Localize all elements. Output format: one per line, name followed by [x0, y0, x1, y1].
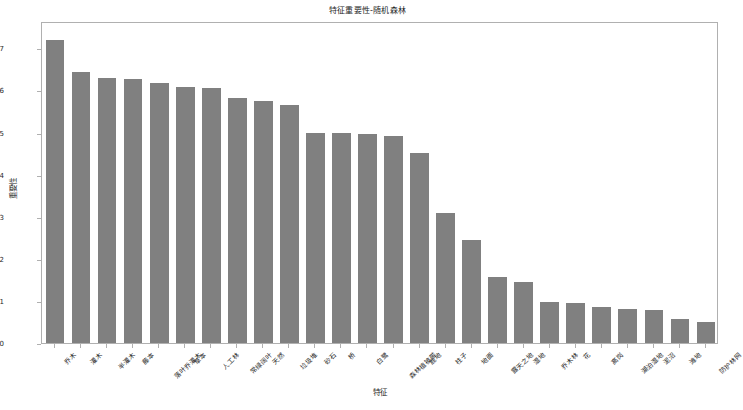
x-tick-mark — [288, 344, 289, 348]
bar — [254, 101, 273, 343]
x-tick-mark — [653, 344, 654, 348]
bar — [592, 307, 611, 343]
x-tick-label: 湿地 — [530, 349, 547, 366]
x-tick-mark — [419, 344, 420, 348]
y-tick-label: 0.01 — [0, 298, 4, 306]
bar — [436, 213, 455, 343]
y-tick-label: 0.00 — [0, 340, 4, 348]
bar — [306, 133, 325, 343]
x-tick-label: 白鹭 — [374, 349, 391, 366]
x-tick-mark — [705, 344, 706, 348]
y-tick-mark — [37, 49, 41, 50]
x-tick-mark — [314, 344, 315, 348]
y-tick-label: 0.05 — [0, 130, 4, 138]
bar — [410, 153, 429, 343]
bar — [176, 87, 195, 343]
x-tick-label: 天然 — [269, 349, 286, 366]
bar — [645, 310, 664, 343]
x-tick-mark — [627, 344, 628, 348]
x-tick-label: 湖泊湿地 — [638, 349, 665, 376]
x-tick-mark — [80, 344, 81, 348]
bar — [618, 309, 637, 343]
x-tick-mark — [340, 344, 341, 348]
x-tick-mark — [549, 344, 550, 348]
x-tick-label: 防护林网 — [716, 349, 743, 376]
bar — [202, 88, 221, 343]
x-tick-label: 常绿阔叶 — [247, 349, 274, 376]
x-axis: 乔木灌木半灌木藤本落叶乔灌木草本人工林常绿阔叶天然垃圾堆砂石桥白鹭森林植被带鹿地… — [41, 344, 718, 410]
chart-title: 特征重要性-随机森林 — [0, 4, 735, 15]
x-tick-label: 砂石 — [321, 349, 338, 366]
bar — [332, 133, 351, 343]
y-axis: 重要性 0.000.010.020.030.040.050.060.07 — [0, 0, 41, 410]
bar — [671, 319, 690, 343]
y-tick-mark — [37, 344, 41, 345]
x-axis-label: 特征 — [41, 386, 718, 397]
x-tick-label: 泥沼 — [660, 349, 677, 366]
x-tick-label: 灌木 — [87, 349, 104, 366]
x-tick-label: 柱子 — [452, 349, 469, 366]
y-tick-label: 0.04 — [0, 172, 4, 180]
x-tick-label: 花 — [580, 349, 592, 361]
bar — [540, 302, 559, 343]
bar — [488, 277, 507, 343]
y-tick-mark — [37, 218, 41, 219]
x-tick-label: 滩地 — [686, 349, 703, 366]
bar — [280, 105, 299, 343]
x-tick-mark — [54, 344, 55, 348]
x-tick-mark — [262, 344, 263, 348]
y-tick-label: 0.03 — [0, 214, 4, 222]
x-tick-mark — [393, 344, 394, 348]
x-tick-label: 半灌木 — [115, 349, 137, 371]
y-tick-mark — [37, 134, 41, 135]
bars-layer — [42, 23, 717, 343]
bar — [384, 136, 403, 344]
bar — [697, 322, 716, 343]
x-tick-label: 乔木 — [61, 349, 78, 366]
x-tick-mark — [497, 344, 498, 348]
x-tick-mark — [366, 344, 367, 348]
x-tick-mark — [575, 344, 576, 348]
x-tick-mark — [471, 344, 472, 348]
x-tick-label: 桥 — [345, 349, 357, 361]
plot-area — [41, 22, 718, 344]
bar — [514, 282, 533, 343]
x-tick-label: 人工林 — [219, 349, 241, 371]
bar — [150, 83, 169, 343]
x-tick-mark — [210, 344, 211, 348]
y-tick-mark — [37, 260, 41, 261]
y-tick-label: 0.07 — [0, 45, 4, 53]
x-tick-label: 露天之地 — [508, 349, 535, 376]
x-tick-mark — [184, 344, 185, 348]
bar — [72, 72, 91, 343]
x-tick-label: 地面 — [478, 349, 495, 366]
y-tick-mark — [37, 176, 41, 177]
x-tick-mark — [236, 344, 237, 348]
y-tick-mark — [37, 302, 41, 303]
x-tick-mark — [132, 344, 133, 348]
x-tick-label: 垃圾堆 — [298, 349, 320, 371]
bar — [566, 303, 585, 343]
x-tick-mark — [158, 344, 159, 348]
bar — [46, 40, 65, 343]
y-axis-label: 重要性 — [7, 169, 18, 209]
y-tick-label: 0.02 — [0, 256, 4, 264]
bar — [228, 98, 247, 343]
x-tick-mark — [679, 344, 680, 348]
y-tick-label: 0.06 — [0, 87, 4, 95]
bar — [98, 78, 117, 343]
x-tick-mark — [445, 344, 446, 348]
bar — [462, 240, 481, 343]
x-tick-label: 藤本 — [139, 349, 156, 366]
bar — [124, 79, 143, 343]
x-tick-mark — [523, 344, 524, 348]
x-tick-mark — [601, 344, 602, 348]
bar — [358, 134, 377, 343]
x-tick-mark — [106, 344, 107, 348]
x-tick-label: 乔木林 — [558, 349, 580, 371]
x-tick-label: 高岗 — [608, 349, 625, 366]
y-tick-mark — [37, 91, 41, 92]
